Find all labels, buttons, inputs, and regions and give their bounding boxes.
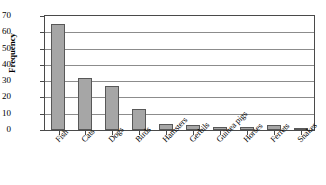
y-tick-label: 10 — [0, 109, 11, 118]
bar — [51, 24, 65, 130]
x-axis-labels: FishCatsDogsBirdsHamstersGerbilsGuinea p… — [0, 131, 326, 185]
bars-group — [45, 16, 314, 130]
bar — [105, 86, 119, 130]
y-tick-label: 30 — [0, 76, 11, 85]
y-tick-label: 40 — [0, 60, 11, 69]
y-tick-label: 60 — [0, 27, 11, 36]
y-tick-label: 70 — [0, 11, 11, 20]
y-tick-label: 50 — [0, 44, 11, 53]
bar-chart: Frequency 706050403020100 FishCatsDogsBi… — [0, 0, 326, 185]
bar — [78, 78, 92, 130]
y-tick-label: 20 — [0, 92, 11, 101]
